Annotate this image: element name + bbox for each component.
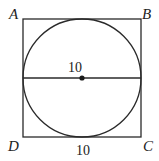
geometry-figure: A B C D 10 10 <box>0 0 159 161</box>
diameter-length-label: 10 <box>68 60 82 75</box>
side-length-label: 10 <box>76 143 90 158</box>
vertex-label-d: D <box>7 138 19 154</box>
center-point <box>79 75 84 80</box>
vertex-label-a: A <box>8 6 19 22</box>
vertex-label-c: C <box>143 138 154 154</box>
vertex-label-b: B <box>142 6 151 22</box>
